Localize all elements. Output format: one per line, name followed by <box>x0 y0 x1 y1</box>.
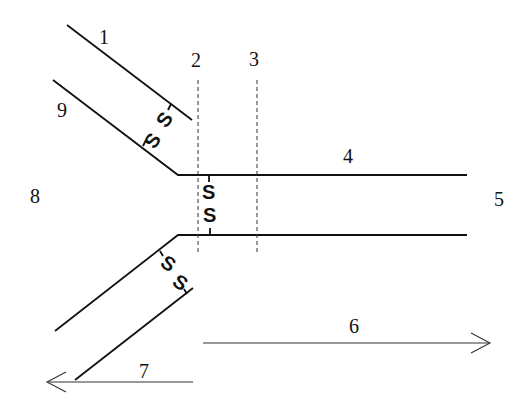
diagram-canvas: S S S S S S 1 2 3 4 5 6 7 8 9 <box>0 0 529 411</box>
svg-text:S: S <box>152 108 178 132</box>
label-8: 8 <box>30 185 40 207</box>
arrow-6-right <box>203 333 490 353</box>
label-3: 3 <box>249 48 259 70</box>
label-4: 4 <box>343 145 353 167</box>
label-7: 7 <box>139 360 149 382</box>
svg-text:S: S <box>157 251 181 277</box>
label-6: 6 <box>349 315 359 337</box>
label-9: 9 <box>57 99 67 121</box>
svg-text:S: S <box>202 181 215 203</box>
label-5: 5 <box>494 188 504 210</box>
label-1: 1 <box>99 26 109 48</box>
spring-center-vertical: S S <box>202 175 216 235</box>
upper-channel-wall <box>53 80 467 175</box>
spring-upper-diagonal: S S <box>140 104 178 152</box>
spring-lower-diagonal: S S <box>157 251 193 296</box>
lower-channel-wall <box>55 235 467 331</box>
label-2: 2 <box>191 49 201 71</box>
svg-text:S: S <box>203 204 216 226</box>
arrow-7-left <box>47 372 193 392</box>
